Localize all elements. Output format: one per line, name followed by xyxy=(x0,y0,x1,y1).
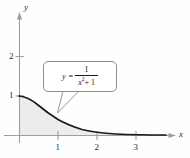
figure-container: 1 2 1 2 3 y x y = 1 x2+ 1 xyxy=(0,0,190,158)
x-tick-label-1: 1 xyxy=(56,143,61,152)
equation-fraction: 1 x2+ 1 xyxy=(75,66,98,87)
fraction-numerator: 1 xyxy=(82,66,92,75)
callout-pointer xyxy=(58,91,80,113)
fraction-denominator: x2+ 1 xyxy=(75,76,98,87)
shaded-area-under-curve xyxy=(19,96,166,136)
denominator-rest: + 1 xyxy=(84,78,95,87)
y-axis-arrow-icon xyxy=(17,12,22,20)
equation-lhs: y xyxy=(62,73,66,81)
x-tick-label-3: 3 xyxy=(134,143,139,152)
equation-expression: y = 1 x2+ 1 xyxy=(62,66,98,87)
y-tick-label-1: 1 xyxy=(9,91,14,100)
x-axis-arrow-icon xyxy=(169,133,177,138)
x-axis-label: x xyxy=(179,130,183,139)
y-axis-label: y xyxy=(24,3,28,12)
equation-equals-sign: = xyxy=(69,73,74,81)
y-tick-label-2: 2 xyxy=(9,52,14,61)
x-tick-label-2: 2 xyxy=(95,143,100,152)
equation-callout-box: y = 1 x2+ 1 xyxy=(43,61,117,92)
